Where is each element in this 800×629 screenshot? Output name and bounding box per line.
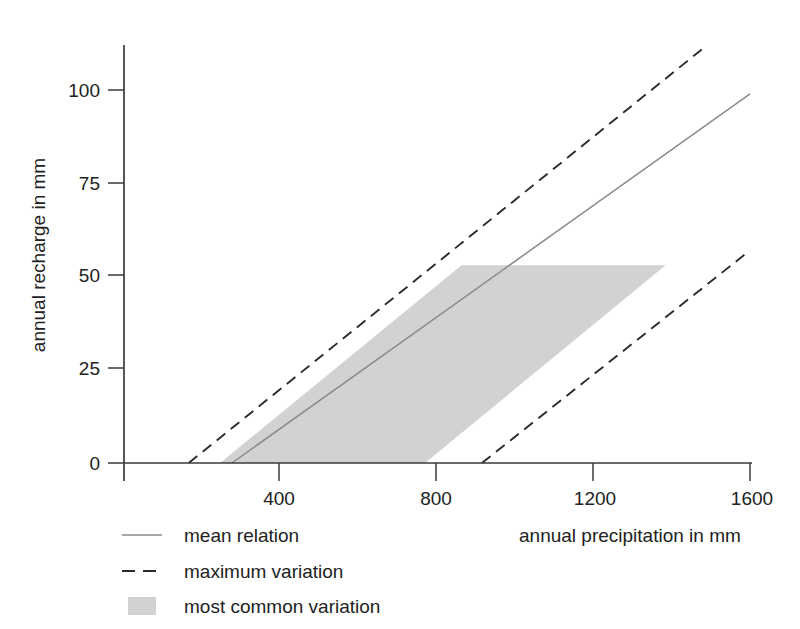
y-tick-label-25: 25 (79, 358, 100, 379)
chart-svg: 100 75 50 25 0 400 800 1200 1600 annual … (0, 0, 800, 629)
x-axis-title: annual precipitation in mm (519, 525, 741, 546)
y-tick-label-100: 100 (68, 80, 100, 101)
y-tick-label-0: 0 (89, 453, 100, 474)
chart-figure: 100 75 50 25 0 400 800 1200 1600 annual … (0, 0, 800, 629)
x-tick-label-400: 400 (263, 488, 295, 509)
legend-swatch-most-common-variation (128, 597, 156, 615)
legend-label-maximum-variation: maximum variation (184, 561, 343, 582)
y-tick-label-50: 50 (79, 265, 100, 286)
y-tick-label-75: 75 (79, 173, 100, 194)
legend-label-mean-relation: mean relation (184, 525, 299, 546)
y-axis-title: annual recharge in mm (28, 158, 49, 352)
x-tick-label-800: 800 (420, 488, 452, 509)
x-tick-label-1600: 1600 (731, 488, 773, 509)
x-tick-label-1200: 1200 (574, 488, 616, 509)
legend-label-most-common-variation: most common variation (184, 596, 380, 617)
